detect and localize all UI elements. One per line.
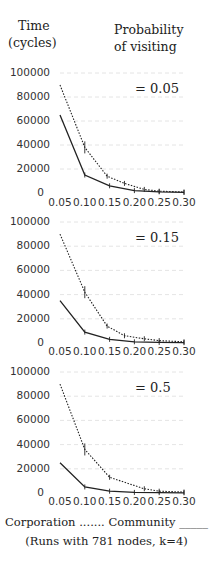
- x-tick-label: 0.30: [169, 495, 199, 507]
- y-tick-label: 100000: [0, 365, 50, 377]
- x-tick-label: 0.30: [169, 345, 199, 357]
- series-community: [60, 463, 184, 493]
- param-value-label: = 0.05: [135, 81, 179, 96]
- y-tick-label: 60000: [0, 114, 50, 126]
- legend-series: Corporation ....... Community _____: [0, 515, 213, 529]
- legend: Corporation ....... Community _____ (Run…: [0, 515, 213, 548]
- x-tick-label: 0.30: [169, 196, 199, 208]
- y-tick-label: 100000: [0, 66, 50, 78]
- y-tick-label: 60000: [0, 413, 50, 425]
- series-corporation: [60, 85, 184, 192]
- series-corporation: [60, 384, 184, 492]
- param-value-label: = 0.15: [135, 230, 179, 245]
- y-tick-label: 40000: [0, 288, 50, 300]
- y-tick-label: 100000: [0, 215, 50, 227]
- y-tick-label: 40000: [0, 438, 50, 450]
- y-tick-label: 80000: [0, 239, 50, 251]
- y-tick-label: 0: [0, 186, 44, 198]
- y-tick-label: 80000: [0, 389, 50, 401]
- y-tick-label: 0: [0, 486, 44, 498]
- y-tick-label: 80000: [0, 90, 50, 102]
- series-community: [60, 115, 184, 192]
- legend-note: (Runs with 781 nodes, k=4): [0, 534, 213, 548]
- plot-canvas: [0, 0, 213, 565]
- y-tick-label: 0: [0, 336, 44, 348]
- y-tick-label: 20000: [0, 312, 50, 324]
- y-tick-label: 20000: [0, 162, 50, 174]
- y-tick-label: 60000: [0, 263, 50, 275]
- y-tick-label: 20000: [0, 462, 50, 474]
- param-value-label: = 0.5: [135, 380, 171, 395]
- series-community: [60, 301, 184, 343]
- series-corporation: [60, 234, 184, 342]
- y-tick-label: 40000: [0, 138, 50, 150]
